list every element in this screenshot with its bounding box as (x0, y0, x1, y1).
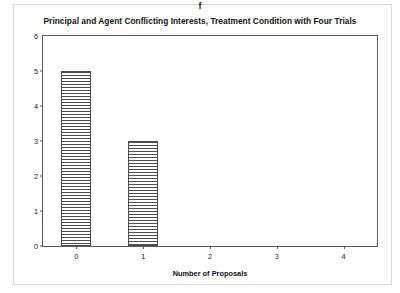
y-axis-tick-label: 4 (3, 102, 43, 111)
x-axis-tick-mark (76, 246, 77, 249)
x-axis-tick-label: 3 (257, 252, 297, 261)
y-axis-tick-label: 1 (3, 207, 43, 216)
y-axis-tick-mark (40, 211, 43, 212)
bar (128, 141, 158, 246)
y-axis-tick-label: 2 (3, 172, 43, 181)
y-axis-tick-mark (40, 106, 43, 107)
y-axis-tick-mark (40, 176, 43, 177)
y-axis-tick-label: 3 (3, 137, 43, 146)
x-axis-tick-label: 2 (190, 252, 230, 261)
y-axis-tick-mark (40, 246, 43, 247)
x-axis-tick-label: 1 (123, 252, 163, 261)
x-axis-tick-mark (277, 246, 278, 249)
y-axis-tick-mark (40, 141, 43, 142)
x-axis-tick-mark (344, 246, 345, 249)
x-axis-tick-label: 4 (324, 252, 364, 261)
plot-area: 012345601234 (42, 35, 378, 247)
y-axis-tick-label: 6 (3, 32, 43, 41)
chart-title: Principal and Agent Conflicting Interest… (0, 16, 400, 26)
y-axis-tick-label: 5 (3, 67, 43, 76)
x-axis-tick-mark (210, 246, 211, 249)
figure-panel: f Principal and Agent Conflicting Intere… (0, 0, 400, 293)
plot-inner: 012345601234 (43, 36, 377, 246)
x-axis-label: Number of Proposals (42, 269, 378, 278)
x-axis-tick-mark (143, 246, 144, 249)
x-axis-tick-label: 0 (56, 252, 96, 261)
panel-letter-label: f (0, 1, 400, 11)
y-axis-tick-label: 0 (3, 242, 43, 251)
y-axis-tick-mark (40, 71, 43, 72)
bar (61, 71, 91, 246)
